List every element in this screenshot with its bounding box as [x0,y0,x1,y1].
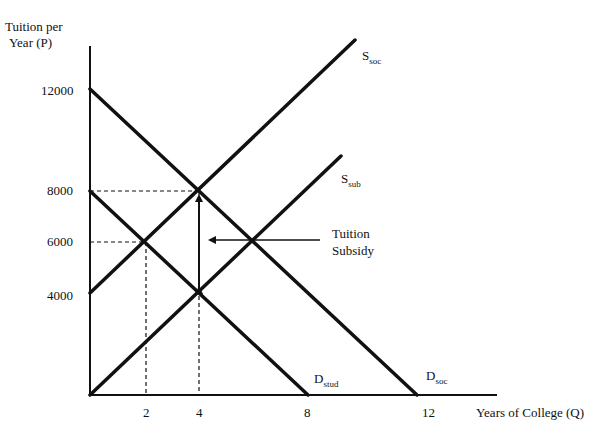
x-axis-label: Years of College (Q) [476,405,584,421]
label-s-sub-sub: sub [348,179,361,189]
supply-demand-chart [0,0,594,437]
label-d-stud: Dstud [314,371,338,392]
curve-s-sub [90,156,341,395]
label-s-sub: Ssub [341,171,361,192]
curve-s-soc [90,40,355,293]
y-axis-label-line2: Year (P) [9,35,52,51]
label-d-stud-main: D [314,371,323,386]
label-d-soc-main: D [426,368,435,383]
annotation-tuition: Tuition [332,226,370,242]
x-tick-2: 2 [143,405,150,421]
label-d-soc-sub: soc [435,376,447,386]
label-d-soc: Dsoc [426,368,447,389]
x-tick-8: 8 [304,405,311,421]
label-s-soc-sub: soc [369,56,381,66]
y-tick-8000: 8000 [47,183,73,199]
dashed-guides [90,191,199,395]
annotation-subsidy: Subsidy [332,243,374,259]
y-tick-4000: 4000 [47,288,73,304]
x-tick-12: 12 [422,405,435,421]
y-tick-6000: 6000 [47,234,73,250]
label-d-stud-sub: stud [323,379,338,389]
y-axis-label-line1: Tuition per [5,19,63,35]
x-tick-4: 4 [196,405,203,421]
label-s-soc: Ssoc [362,48,381,69]
y-tick-12000: 12000 [41,83,74,99]
